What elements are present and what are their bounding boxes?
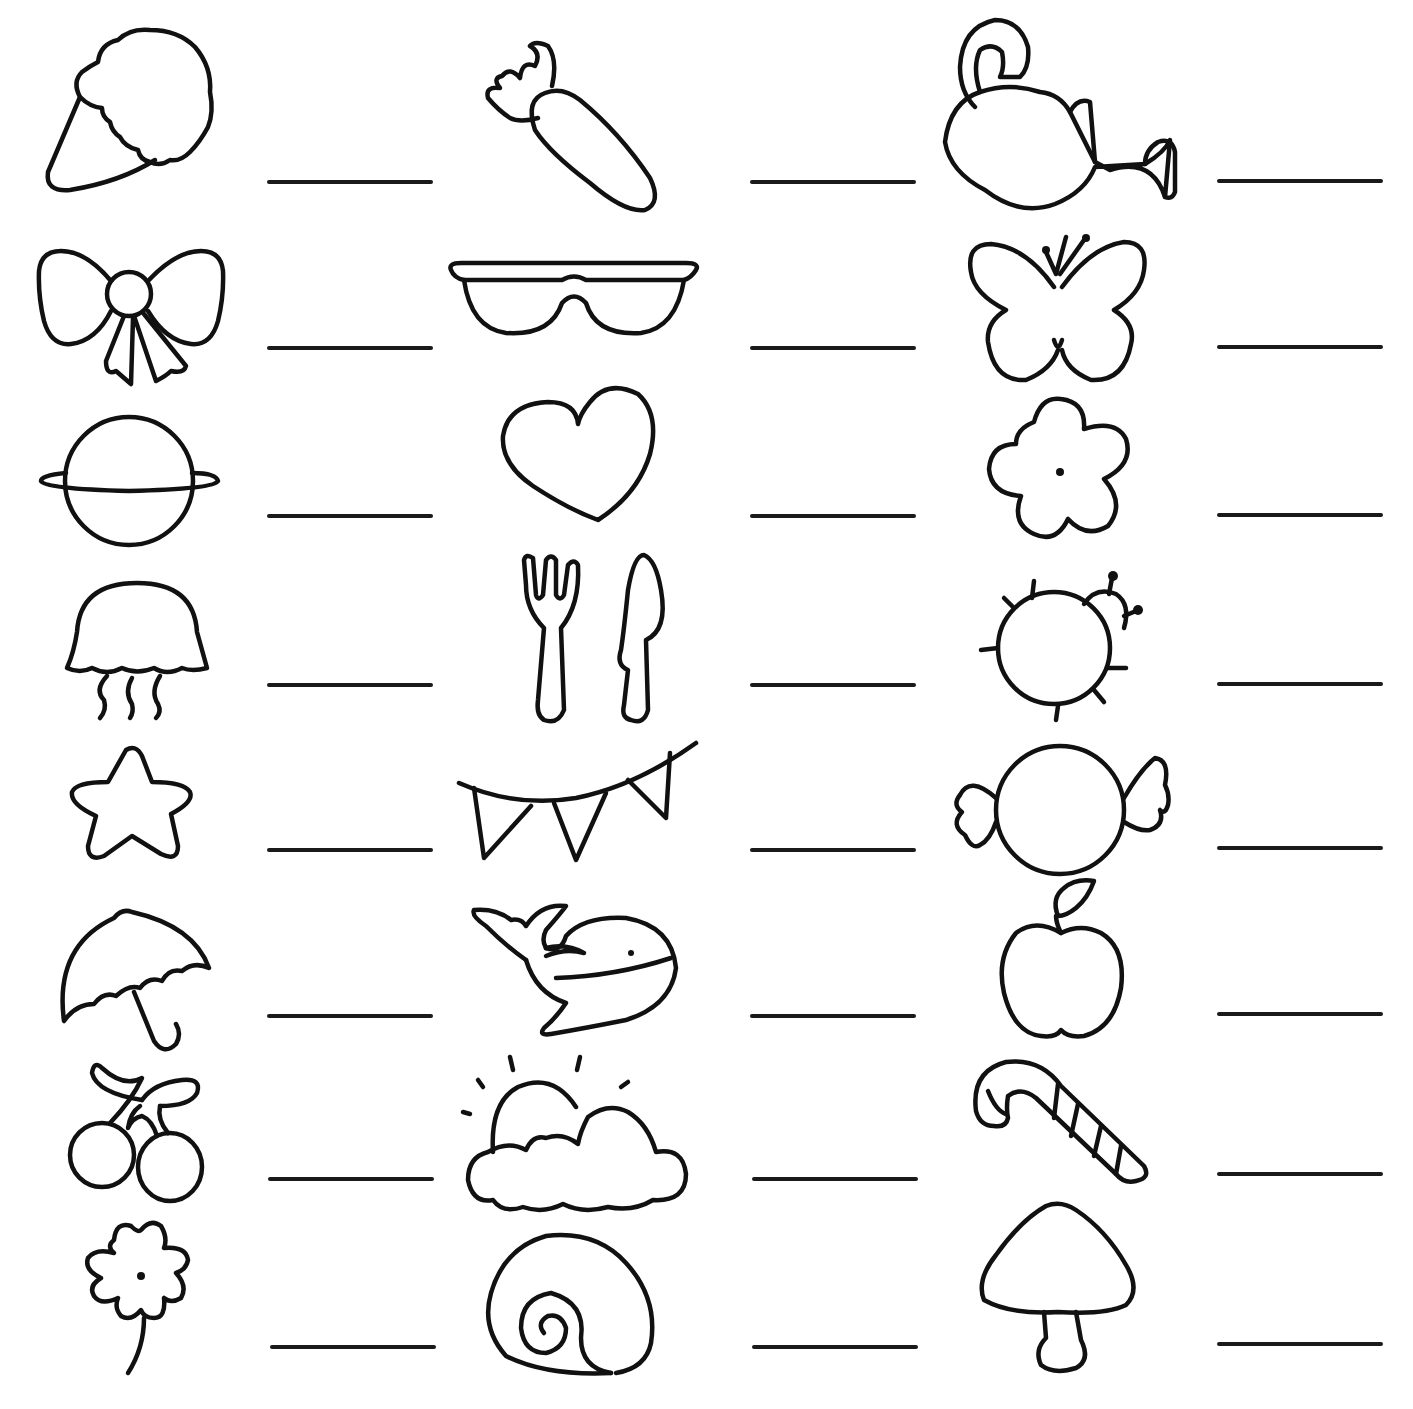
answer-blank[interactable]: [1217, 179, 1383, 183]
answer-blank[interactable]: [1217, 846, 1383, 850]
fork-knife-icon: fork and knife: [516, 550, 676, 726]
watering-can-icon: watering can: [940, 12, 1180, 220]
answer-blank[interactable]: [267, 683, 433, 687]
carrot-icon: carrot: [480, 38, 665, 213]
mushroom-icon: mushroom: [976, 1200, 1140, 1380]
umbrella-icon: umbrella: [54, 906, 214, 1056]
candy-cane-icon: candy cane: [966, 1056, 1154, 1186]
answer-blank[interactable]: [1217, 1342, 1383, 1346]
clover-flower-icon: flower: [76, 1218, 196, 1378]
flower-icon: flower: [986, 394, 1134, 542]
answer-blank[interactable]: [750, 848, 916, 852]
answer-blank[interactable]: [750, 346, 916, 350]
apple-icon: apple: [996, 878, 1126, 1040]
answer-blank[interactable]: [267, 346, 433, 350]
answer-blank[interactable]: [750, 1014, 916, 1018]
answer-blank[interactable]: [270, 1345, 436, 1349]
answer-blank[interactable]: [750, 514, 916, 518]
bow-icon: bow: [36, 246, 226, 388]
answer-blank[interactable]: [1217, 513, 1383, 517]
answer-blank[interactable]: [1217, 345, 1383, 349]
ladybug-icon: ladybug: [976, 556, 1144, 722]
answer-blank[interactable]: [1217, 1172, 1383, 1176]
answer-blank[interactable]: [752, 1345, 918, 1349]
answer-blank[interactable]: [1217, 1012, 1383, 1016]
star-icon: star: [66, 744, 196, 868]
whale-icon: whale: [466, 898, 680, 1038]
answer-blank[interactable]: [750, 683, 916, 687]
candy-icon: candy: [950, 740, 1172, 880]
heart-icon: heart: [498, 384, 658, 524]
ice-cream-cone-icon: ice cream: [40, 22, 220, 194]
answer-blank[interactable]: [752, 1177, 918, 1181]
answer-blank[interactable]: [750, 180, 916, 184]
answer-blank[interactable]: [267, 1014, 433, 1018]
cherries-icon: cherries: [62, 1058, 207, 1200]
sunglasses-icon: sunglasses: [446, 258, 702, 340]
jellyfish-icon: jellyfish: [62, 580, 212, 722]
answer-blank[interactable]: [267, 180, 433, 184]
answer-blank[interactable]: [1217, 682, 1383, 686]
worksheet: ice cream bow planet jellyfish: [0, 0, 1413, 1409]
bunting-icon: bunting: [456, 738, 700, 866]
shell-icon: shell: [486, 1228, 666, 1378]
butterfly-icon: butterfly: [966, 232, 1150, 386]
planet-icon: planet: [36, 413, 222, 549]
sun-cloud-icon: sun and cloud: [458, 1052, 694, 1214]
answer-blank[interactable]: [268, 1177, 434, 1181]
answer-blank[interactable]: [267, 848, 433, 852]
answer-blank[interactable]: [267, 514, 433, 518]
